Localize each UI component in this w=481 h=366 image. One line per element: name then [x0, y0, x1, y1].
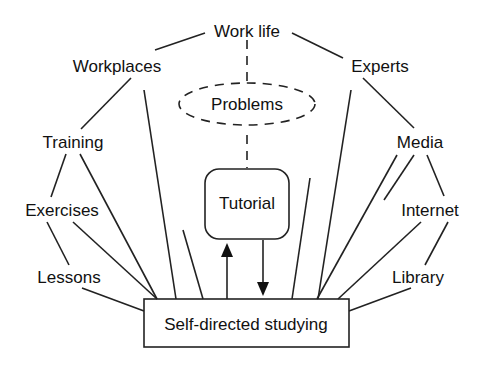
node-workplaces: Workplaces — [73, 57, 162, 76]
arrow-down-head — [257, 282, 269, 296]
node-tutorial: Tutorial — [219, 194, 275, 213]
arrow-up-head — [221, 243, 233, 257]
node-lessons: Lessons — [37, 268, 100, 287]
node-work-life: Work life — [214, 22, 280, 41]
node-problems: Problems — [211, 95, 283, 114]
node-experts: Experts — [351, 57, 409, 76]
node-media: Media — [397, 133, 444, 152]
node-exercises: Exercises — [25, 201, 99, 220]
learning-resources-diagram: Work life Problems Tutorial Self-directe… — [0, 0, 481, 366]
node-training: Training — [43, 133, 104, 152]
node-internet: Internet — [401, 201, 459, 220]
node-library: Library — [392, 268, 444, 287]
node-self-directed-studying: Self-directed studying — [164, 315, 327, 334]
